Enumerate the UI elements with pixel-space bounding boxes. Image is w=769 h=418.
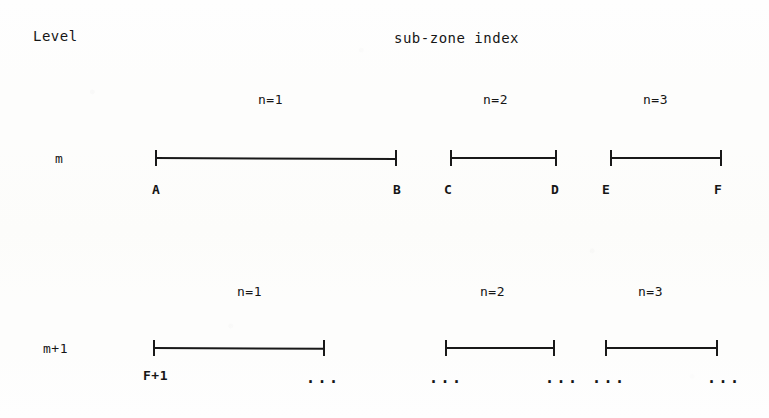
zone-index-label-m1-2: n=2	[480, 285, 505, 298]
endpoint-label-a: A	[152, 183, 160, 196]
segment-tick-right	[716, 340, 718, 356]
zone-index-label-m-1: n=1	[258, 93, 283, 106]
zone-index-label-m-3: n=3	[643, 93, 668, 106]
zone-segment-m1-3	[605, 340, 718, 356]
segment-bar	[445, 347, 555, 349]
endpoint-label-f-plus-1: F+1	[143, 369, 168, 382]
endpoint-label-f: F	[714, 183, 722, 196]
zone-segment-m1-2	[445, 340, 555, 356]
ellipsis-m1-1-end: ...	[306, 371, 341, 386]
endpoint-label-b: B	[393, 183, 401, 196]
segment-tick-right	[395, 150, 397, 166]
level-label-m: m	[55, 152, 63, 165]
level-label-m-plus-1: m+1	[43, 342, 68, 355]
endpoint-label-c: C	[444, 183, 452, 196]
level-column-header: Level	[33, 29, 78, 43]
segment-tick-right	[323, 340, 325, 356]
zone-index-label-m1-1: n=1	[237, 285, 262, 298]
diagram-canvas: Level sub-zone index m n=1 n=2 n=3 A B C…	[0, 0, 769, 418]
segment-tick-right	[720, 150, 722, 166]
ellipsis-m1-3-start: ...	[592, 371, 627, 386]
zone-segment-m-1	[155, 150, 397, 166]
ellipsis-m1-2-start: ...	[429, 371, 464, 386]
segment-bar	[155, 157, 397, 160]
ellipsis-m1-2-end: ...	[545, 371, 580, 386]
subzone-index-header: sub-zone index	[394, 31, 519, 45]
segment-bar	[605, 347, 718, 349]
zone-segment-m1-1	[153, 340, 325, 356]
segment-bar	[153, 347, 325, 350]
endpoint-label-d: D	[551, 183, 559, 196]
ellipsis-m1-3-end: ...	[707, 371, 742, 386]
segment-tick-right	[555, 150, 557, 166]
segment-bar	[450, 157, 557, 159]
zone-index-label-m-2: n=2	[483, 93, 508, 106]
zone-segment-m-2	[450, 150, 557, 166]
endpoint-label-e: E	[602, 183, 610, 196]
zone-segment-m-3	[610, 150, 722, 166]
zone-index-label-m1-3: n=3	[638, 285, 663, 298]
segment-tick-right	[553, 340, 555, 356]
segment-bar	[610, 157, 722, 159]
